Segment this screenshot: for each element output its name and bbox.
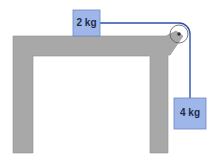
pulley-diagram (0, 0, 220, 162)
table (13, 31, 183, 153)
block-2kg-label: 2 kg (73, 17, 100, 28)
pulley-axle (177, 32, 181, 36)
block-4kg-label: 4 kg (174, 107, 206, 118)
